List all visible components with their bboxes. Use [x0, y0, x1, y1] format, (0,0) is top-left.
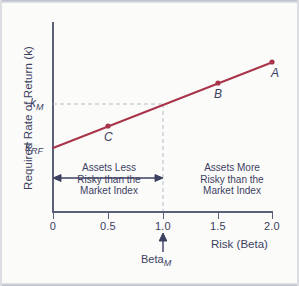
data-point-label-a: A [271, 66, 279, 80]
x-axis-title: Risk (Beta) [211, 238, 268, 250]
data-point-a-marker [269, 59, 274, 64]
assets-less-risky-line-3: Market Index [62, 185, 156, 197]
data-point-b-marker [215, 80, 220, 85]
km-subscript: M [36, 102, 44, 112]
assets-more-risky-line-1: Assets More [186, 162, 278, 174]
beta-market-main-text: Beta [141, 253, 164, 265]
beta-market-label: BetaM [141, 253, 171, 268]
y-axis-title: Required Rate of Return (k) [22, 28, 34, 208]
beta-market-subscript: M [164, 258, 172, 268]
assets-more-risky-line-2: Risky than the [186, 174, 278, 186]
data-point-c-marker [105, 123, 110, 128]
annotation-assets-less-risky: Assets Less Risky than the Market Index [62, 162, 156, 197]
annotation-assets-more-risky: Assets More Risky than the Market Index [186, 162, 278, 197]
assets-less-risky-line-2: Risky than the [62, 174, 156, 186]
assets-more-risky-line-3: Market Index [186, 185, 278, 197]
assets-less-risky-line-1: Assets Less [62, 162, 156, 174]
beta-market-up-arrow [159, 233, 167, 252]
data-point-label-b: B [214, 87, 222, 101]
sml-chart-figure: 0 0.5 1.0 1.5 2.0 A B C kM kRF [0, 0, 299, 286]
data-point-label-c: C [104, 130, 113, 144]
